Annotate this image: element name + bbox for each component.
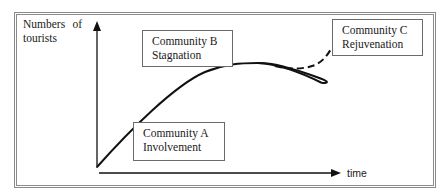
y-axis: [93, 21, 101, 168]
stage-c-name: Rejuvenation: [342, 37, 422, 51]
stage-b-name: Stagnation: [152, 48, 232, 62]
stage-a-name: Involvement: [143, 140, 224, 154]
stage-a-title: Community A: [143, 126, 224, 140]
stage-box-stagnation: Community B Stagnation: [142, 30, 233, 67]
y-axis-label-line1: Numbers of: [23, 17, 82, 31]
stage-box-rejuvenation: Community C Rejuvenation: [332, 19, 423, 56]
stage-c-title: Community C: [342, 23, 422, 37]
y-axis-label-line2: tourists: [23, 32, 57, 44]
x-axis: [99, 169, 341, 177]
rejuvenation-curve: [275, 47, 332, 69]
y-axis-arrow-icon: [93, 21, 101, 31]
x-axis-arrow-icon: [331, 169, 341, 177]
y-axis-label: Numbers of tourists: [23, 17, 82, 45]
x-axis-label: time: [347, 166, 367, 180]
stage-b-title: Community B: [152, 34, 232, 48]
stage-box-involvement: Community A Involvement: [133, 122, 225, 161]
